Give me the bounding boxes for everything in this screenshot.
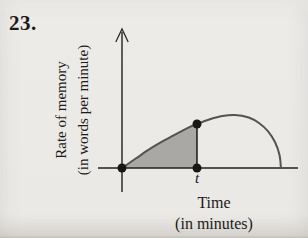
x-axis-label: Time (in minutes)	[175, 192, 253, 234]
curve-point-marker	[118, 164, 127, 173]
x-axis-label-line2: (in minutes)	[175, 213, 253, 234]
x-axis-label-line1: Time	[175, 192, 253, 213]
curve-point-marker	[193, 120, 202, 129]
figure-problem-23: 23. Rate of memory (in words per minute)…	[0, 0, 308, 238]
t-tick-label: t	[195, 170, 199, 187]
memory-rate-chart	[0, 0, 308, 238]
